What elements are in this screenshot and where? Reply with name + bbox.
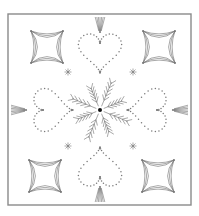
burst-branch — [102, 78, 116, 106]
burst-branch — [68, 94, 96, 108]
asterisk-icon — [65, 143, 72, 150]
four-point-stars — [28, 30, 176, 193]
center-dot — [98, 108, 102, 112]
heart-left — [33, 88, 73, 133]
asterisk-icon — [65, 69, 72, 76]
burst-branch — [86, 83, 98, 106]
center-burst — [68, 78, 132, 142]
pattern-canvas — [0, 0, 199, 216]
star-bottom-right-icon — [141, 159, 175, 193]
heart-top — [78, 33, 123, 73]
tassel-icon — [95, 17, 105, 33]
burst-branch — [104, 112, 132, 126]
asterisk-icon — [130, 143, 137, 150]
heart-right — [126, 88, 166, 133]
tassel-icon — [95, 186, 105, 202]
burst-branch — [102, 114, 114, 137]
burst-branch — [84, 114, 98, 142]
heart-bottom — [78, 146, 123, 186]
burst-branch — [104, 96, 127, 108]
tassel-icon — [11, 105, 27, 115]
star-top-right-icon — [142, 30, 176, 64]
star-bottom-left-icon — [28, 159, 62, 193]
burst-branch — [73, 112, 96, 124]
star-top-left-icon — [30, 30, 64, 64]
asterisk-icon — [130, 69, 137, 76]
tassel-icon — [172, 105, 188, 115]
